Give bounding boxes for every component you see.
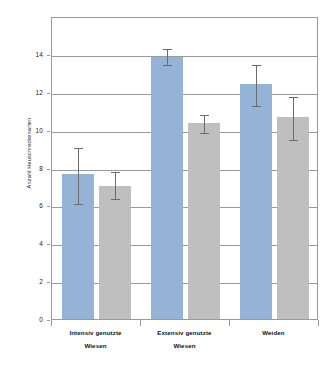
error-bar-series1-group3 xyxy=(240,65,272,107)
x-category-label-1: Intensiv genutzteWiesen xyxy=(51,326,140,352)
y-tick-label: 6 xyxy=(23,202,43,209)
chart-figure: Anzahl Heuschreckenarten 02468101214 Int… xyxy=(0,0,334,367)
error-bar-cap-top xyxy=(252,65,261,66)
y-tick-label: 4 xyxy=(23,240,43,247)
bar-series2-group2 xyxy=(188,123,220,319)
y-tick-mark xyxy=(47,169,50,170)
error-bar-stem xyxy=(115,172,116,199)
y-tick-label: 2 xyxy=(23,278,43,285)
error-bar-series2-group3 xyxy=(277,97,309,142)
x-axis-end-tick-left xyxy=(51,320,52,326)
gridline xyxy=(52,94,317,95)
y-tick-mark xyxy=(47,131,50,132)
bar-series2-group3 xyxy=(277,117,309,319)
gridline xyxy=(52,56,317,57)
y-tick-mark xyxy=(47,55,50,56)
y-tick-mark xyxy=(47,244,50,245)
y-tick-label: 10 xyxy=(23,127,43,134)
error-bar-series1-group2 xyxy=(151,49,183,66)
y-tick-mark xyxy=(47,282,50,283)
error-bar-series2-group2 xyxy=(188,115,220,135)
x-group-separator xyxy=(229,320,230,326)
error-bar-cap-bottom xyxy=(252,106,261,107)
bar-series1-group2 xyxy=(151,57,183,319)
x-category-line1: Extensiv genutzte xyxy=(140,326,229,339)
error-bar-cap-top xyxy=(74,148,83,149)
plot-inner xyxy=(52,18,317,319)
error-bar-cap-bottom xyxy=(200,133,209,134)
x-category-label-2: Extensiv genutzteWiesen xyxy=(140,326,229,352)
error-bar-cap-bottom xyxy=(74,204,83,205)
error-bar-cap-top xyxy=(163,49,172,50)
error-bar-stem xyxy=(256,65,257,107)
x-category-line2: Wiesen xyxy=(51,339,140,352)
x-category-line1: Weiden xyxy=(229,326,318,339)
error-bar-series2-group1 xyxy=(99,172,131,199)
y-axis-title: Anzahl Heuschreckenarten xyxy=(26,98,32,208)
error-bar-cap-top xyxy=(200,115,209,116)
x-axis-end-tick-right xyxy=(318,320,319,326)
error-bar-stem xyxy=(78,148,79,205)
error-bar-stem xyxy=(293,97,294,142)
plot-area xyxy=(51,17,318,320)
y-tick-label: 14 xyxy=(23,51,43,58)
bar-series2-group1 xyxy=(99,186,131,320)
x-category-label-3: Weiden xyxy=(229,326,318,339)
error-bar-series1-group1 xyxy=(62,148,94,205)
bar-series1-group3 xyxy=(240,84,272,319)
error-bar-cap-top xyxy=(289,97,298,98)
x-group-separator xyxy=(140,320,141,326)
error-bar-cap-bottom xyxy=(163,65,172,66)
y-tick-label: 12 xyxy=(23,89,43,96)
y-tick-mark xyxy=(47,93,50,94)
error-bar-cap-bottom xyxy=(111,199,120,200)
x-category-line1: Intensiv genutzte xyxy=(51,326,140,339)
error-bar-cap-bottom xyxy=(289,140,298,141)
y-tick-mark xyxy=(47,206,50,207)
y-tick-label: 0 xyxy=(23,316,43,323)
error-bar-stem xyxy=(204,115,205,135)
y-tick-mark xyxy=(47,320,50,321)
y-tick-label: 8 xyxy=(23,165,43,172)
error-bar-cap-top xyxy=(111,172,120,173)
x-category-line2: Wiesen xyxy=(140,339,229,352)
error-bar-stem xyxy=(167,49,168,66)
